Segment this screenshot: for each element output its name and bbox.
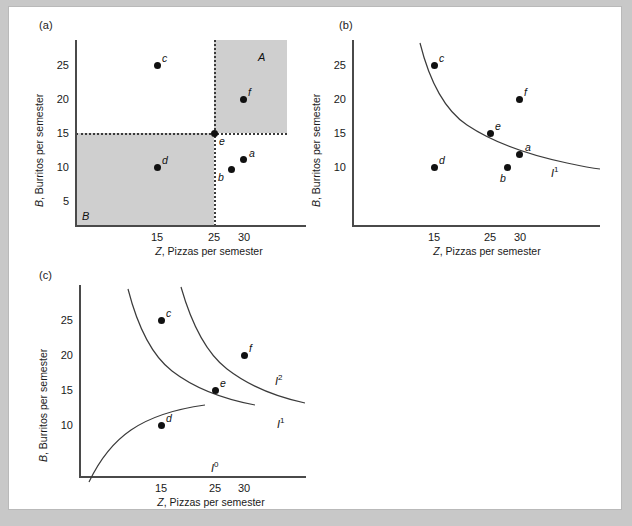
- y-axis-var: B: [310, 200, 322, 207]
- panel-a-xtick-25: 25: [200, 231, 228, 243]
- data-point-f-label: f: [524, 86, 527, 98]
- data-point-f-label: f: [248, 86, 251, 98]
- data-point-d: [431, 164, 438, 171]
- data-point-a-label: a: [525, 141, 531, 153]
- panel-b-ytick-15: 15: [320, 127, 346, 139]
- indifference-curve-I0: [89, 405, 205, 482]
- panel-a-xtick-30: 30: [230, 231, 258, 243]
- curve-I1-exponent: 1: [280, 416, 284, 425]
- panel-b-curve-group: [319, 7, 623, 257]
- x-axis-text: , Pizzas per semester: [440, 245, 541, 257]
- data-point-b-label: b: [218, 171, 224, 183]
- data-point-e: [211, 130, 218, 137]
- panel-c-xtick-15: 15: [147, 482, 175, 494]
- data-point-a: [516, 151, 523, 158]
- panel-c-ytick-20: 20: [47, 349, 73, 361]
- data-point-a-label: a: [249, 147, 255, 159]
- data-point-c: [431, 62, 438, 69]
- data-point-f-label: f: [249, 342, 252, 354]
- panel-b-ytick-25: 25: [320, 59, 346, 71]
- y-axis-var: B: [37, 455, 49, 462]
- panel-b-y-axis-title: B, Burritos per semester: [310, 94, 322, 207]
- y-axis-text: , Burritos per semester: [33, 94, 45, 200]
- data-point-c-label: c: [439, 52, 444, 64]
- panel-a-ytick-10: 10: [43, 161, 69, 173]
- panel-a: (a) A B 25 20 15 10 5 15 25 30 B, Burrit…: [9, 7, 329, 257]
- panel-b-xtick-25: 25: [476, 231, 504, 243]
- curve-label-I2: I2: [275, 373, 283, 387]
- data-point-c-label: c: [166, 307, 171, 319]
- data-point-d: [158, 422, 165, 429]
- y-axis-text: , Burritos per semester: [37, 349, 49, 455]
- data-point-f: [241, 352, 248, 359]
- data-point-e-label: e: [220, 377, 226, 389]
- panel-b-x-axis-title: Z, Pizzas per semester: [397, 245, 577, 257]
- data-point-f: [516, 96, 523, 103]
- data-point-b: [504, 164, 511, 171]
- panel-a-x-axis-title: Z, Pizzas per semester: [119, 245, 299, 257]
- panel-c-y-axis-title: B, Burritos per semester: [37, 349, 49, 462]
- indifference-curve-I1: [128, 289, 255, 405]
- data-point-e-label: e: [219, 135, 225, 147]
- panel-a-y-axis: [75, 40, 77, 226]
- panel-a-ytick-5: 5: [43, 195, 69, 207]
- data-point-d-label: d: [439, 154, 445, 166]
- data-point-e: [212, 387, 219, 394]
- panel-c: (c) I2 I1 I0 25 20 15 10 15 25 30 B, Bur…: [9, 257, 339, 511]
- y-axis-text: , Burritos per semester: [310, 94, 322, 200]
- panel-a-ytick-20: 20: [43, 93, 69, 105]
- data-point-c: [158, 317, 165, 324]
- curve-label-I1: I1: [551, 165, 559, 179]
- panel-b: (b) I1 25 20 15 10 15 25 30 B, Burritos …: [319, 7, 623, 257]
- x-axis-text: , Pizzas per semester: [162, 245, 263, 257]
- curve-I0-exponent: 0: [214, 460, 218, 469]
- region-A-label: A: [258, 51, 265, 63]
- data-point-d-label: d: [166, 412, 172, 424]
- panel-c-x-axis-title: Z, Pizzas per semester: [121, 496, 301, 508]
- data-point-e-label: e: [495, 120, 501, 132]
- dotted-line-b15: [76, 133, 287, 135]
- panel-c-ytick-25: 25: [47, 314, 73, 326]
- curve-label-I0: I0: [211, 460, 219, 474]
- panel-a-ytick-15: 15: [43, 127, 69, 139]
- data-point-d-label: d: [162, 154, 168, 166]
- panel-c-ytick-10: 10: [47, 419, 73, 431]
- curve-label-I1: I1: [277, 416, 285, 430]
- data-point-d: [154, 164, 161, 171]
- data-point-c-label: c: [162, 52, 167, 64]
- indifference-curve-I1: [420, 43, 600, 169]
- indifference-curve-I2: [181, 287, 305, 403]
- panel-b-xtick-15: 15: [420, 231, 448, 243]
- panel-a-tag: (a): [39, 19, 53, 31]
- panel-c-ytick-15: 15: [47, 384, 73, 396]
- data-point-c: [154, 62, 161, 69]
- y-axis-var: B: [33, 200, 45, 207]
- data-point-a: [240, 156, 247, 163]
- panel-b-xtick-30: 30: [506, 231, 534, 243]
- curve-I2-exponent: 2: [278, 373, 282, 382]
- panel-a-xtick-15: 15: [143, 231, 171, 243]
- panel-c-xtick-30: 30: [230, 482, 258, 494]
- data-point-b: [228, 166, 235, 173]
- panel-a-y-axis-title: B, Burritos per semester: [33, 94, 45, 207]
- data-point-e: [487, 130, 494, 137]
- region-B-shading: [76, 133, 214, 226]
- figure-card: (a) A B 25 20 15 10 5 15 25 30 B, Burrit…: [8, 6, 622, 510]
- panel-a-ytick-25: 25: [43, 59, 69, 71]
- data-point-b-label: b: [500, 172, 506, 184]
- panel-b-ytick-20: 20: [320, 93, 346, 105]
- curve-I1-exponent: 1: [554, 165, 558, 174]
- region-B-label: B: [82, 210, 89, 222]
- panel-c-xtick-25: 25: [201, 482, 229, 494]
- x-axis-text: , Pizzas per semester: [164, 496, 265, 508]
- panel-a-x-axis: [75, 225, 306, 227]
- data-point-f: [240, 96, 247, 103]
- panel-b-ytick-10: 10: [320, 161, 346, 173]
